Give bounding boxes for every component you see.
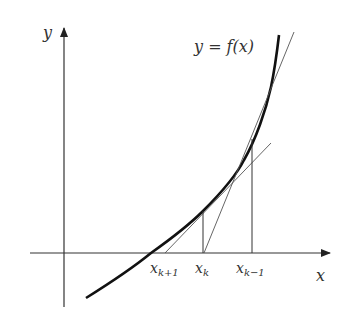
label-xk-plus-1: xk+1: [150, 260, 179, 278]
diagram-canvas: y x y = f(x) xk+1 xk xk−1: [0, 0, 348, 319]
label-xk: xk: [195, 260, 209, 278]
curve-label: y = f(x): [193, 37, 254, 56]
secant-line: [204, 32, 294, 253]
function-curve: [86, 35, 279, 298]
y-axis-label: y: [42, 23, 53, 42]
tangent-line-xk: [165, 143, 271, 253]
label-xk-minus-1: xk−1: [236, 260, 265, 278]
x-axis-label: x: [316, 266, 325, 285]
